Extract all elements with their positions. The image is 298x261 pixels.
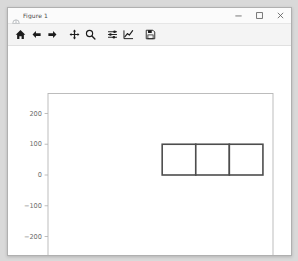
y-ticklabel-1: −100 <box>24 202 42 210</box>
y-ticklabel-2: 0 <box>38 171 42 179</box>
y-ticklabel-3: 100 <box>29 140 42 148</box>
y-ticklabel-0: −200 <box>24 233 42 241</box>
arrow-right-icon[interactable] <box>45 27 59 42</box>
titlebar-left: Figure 1 <box>8 12 228 20</box>
rectangle-0 <box>162 144 196 175</box>
rectangle-2 <box>229 144 263 175</box>
toolbar-separator-1 <box>61 34 65 35</box>
arrow-left-icon[interactable] <box>29 27 43 42</box>
rectangle-series <box>162 144 263 175</box>
minimize-button[interactable] <box>228 8 249 23</box>
figure-window: Figure 1 <box>7 7 292 256</box>
screenshot-root: Figure 1 <box>0 0 298 261</box>
window-titlebar[interactable]: Figure 1 <box>8 8 291 24</box>
magnifier-icon[interactable] <box>83 27 97 42</box>
matplotlib-figure-icon <box>12 12 20 20</box>
sliders-icon[interactable] <box>105 27 119 42</box>
window-controls <box>228 8 291 23</box>
floppy-disk-save-icon[interactable] <box>143 27 157 42</box>
matplotlib-axes: −200−1000100200 −300−200−1000100200300 <box>8 46 289 255</box>
figure-canvas[interactable]: −200−1000100200 −300−200−1000100200300 <box>8 46 291 255</box>
close-button[interactable] <box>270 8 291 23</box>
move-icon[interactable] <box>67 27 81 42</box>
navigation-toolbar <box>8 24 291 46</box>
window-title: Figure 1 <box>23 12 48 19</box>
toolbar-separator-2 <box>99 34 103 35</box>
home-icon[interactable] <box>13 27 27 42</box>
rectangle-1 <box>196 144 230 175</box>
maximize-button[interactable] <box>249 8 270 23</box>
toolbar-separator-3 <box>137 34 141 35</box>
y-ticklabel-4: 200 <box>29 110 42 118</box>
chart-line-icon[interactable] <box>121 27 135 42</box>
